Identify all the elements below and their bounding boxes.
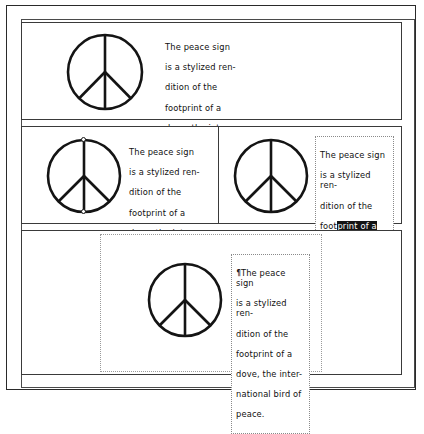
caption-line: is a stylized ren- [236,298,305,318]
peace-sign-icon[interactable] [44,136,124,216]
caption-line: national bird of [236,389,305,399]
pilcrow-caret-icon: ¶ [237,268,241,278]
peace-sign-icon[interactable] [231,136,311,216]
panel-middle-left: The peace sign is a stylized ren- dition… [22,127,218,223]
caption-line: dition of the [320,201,389,211]
caption-line: dition of the [236,329,305,339]
caption-line: The peace sign [320,150,389,160]
caption-line: dition of the [129,187,221,197]
text-box-bottom[interactable]: ¶The peace sign is a stylized ren- ditio… [231,254,310,434]
panel-middle-row: The peace sign is a stylized ren- dition… [21,126,402,224]
peace-sign-icon[interactable] [145,260,225,340]
caption-line: footprint of a [165,103,257,113]
caption-line: is a stylized ren- [165,62,257,72]
caption-line: dove, the inter- [236,369,305,379]
peace-sign-icon [64,31,146,113]
panel-middle-right: The peace sign is a stylized ren- dition… [219,127,403,223]
panel-bottom: ¶The peace sign is a stylized ren- ditio… [21,230,402,375]
caption-line: peace. [236,409,305,419]
caption-line: footprint of a [236,349,305,359]
path-handle-top[interactable] [81,137,86,142]
caption-line: is a stylized ren- [129,167,221,177]
caption-line: is a stylized ren- [320,170,389,190]
caption-line-with-caret: ¶The peace sign [236,268,305,288]
caption-line: dition of the [165,82,257,92]
dotted-group-container[interactable]: ¶The peace sign is a stylized ren- ditio… [100,234,322,372]
caption-line: The peace sign [236,268,285,288]
caption-line: The peace sign [165,42,257,52]
caption-line: The peace sign [129,147,221,157]
panel-top: The peace sign is a stylized ren- dition… [21,22,402,120]
path-handle-bottom[interactable] [81,209,86,214]
caption-line: footprint of a [129,208,221,218]
